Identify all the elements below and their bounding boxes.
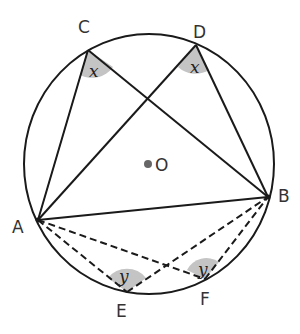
segment-AB bbox=[38, 197, 268, 220]
point-A-dot bbox=[36, 218, 41, 223]
point-label-D: D bbox=[193, 22, 206, 42]
point-label-C: C bbox=[78, 17, 90, 37]
segment-FB bbox=[205, 197, 268, 279]
angle-label-E: y bbox=[118, 266, 129, 286]
angle-label-D: x bbox=[190, 57, 200, 77]
point-label-B: B bbox=[278, 186, 290, 206]
center-label: O bbox=[155, 155, 168, 175]
circle-diagram: O C D A B E F x x y y bbox=[0, 0, 300, 334]
point-label-E: E bbox=[116, 301, 127, 321]
segment-CB bbox=[88, 50, 268, 197]
angle-label-C: x bbox=[89, 61, 99, 81]
point-B-dot bbox=[266, 195, 271, 200]
segment-AC bbox=[38, 50, 88, 220]
point-label-F: F bbox=[200, 289, 210, 309]
center-dot bbox=[144, 160, 152, 168]
angle-label-F: y bbox=[197, 259, 208, 279]
point-label-A: A bbox=[12, 217, 24, 237]
